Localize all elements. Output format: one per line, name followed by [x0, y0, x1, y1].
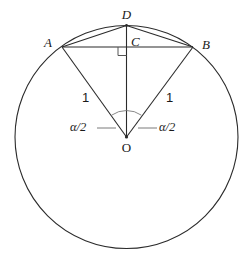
label-radius-left: 1: [82, 91, 89, 104]
label-angle-right: α/2: [159, 121, 175, 134]
label-radius-right: 1: [166, 91, 173, 104]
label-point-c: C: [131, 35, 140, 48]
vertex-dot-d: [125, 24, 128, 27]
label-angle-left: α/2: [70, 121, 86, 134]
geometry-figure: D C A B O 1 1 α/2 α/2: [0, 0, 251, 261]
label-point-o: O: [122, 141, 131, 154]
vertex-dot-o: [125, 135, 128, 138]
label-point-b: B: [202, 38, 210, 51]
chord-ad-line: [62, 26, 127, 48]
geometry-canvas: [0, 0, 251, 261]
label-point-d: D: [122, 8, 131, 21]
right-angle-marker: [118, 47, 127, 56]
label-point-a: A: [44, 36, 52, 49]
